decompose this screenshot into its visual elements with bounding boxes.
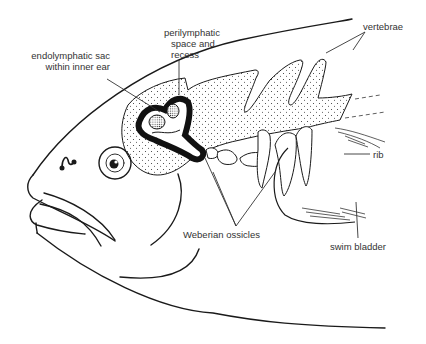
lower-lip bbox=[30, 200, 85, 234]
label-vertebrae: vertebrae bbox=[363, 21, 403, 32]
ossicle-2 bbox=[217, 150, 237, 165]
leader-vertebrae-1 bbox=[326, 32, 365, 53]
ossicle-4 bbox=[257, 130, 270, 188]
label-endolymphatic-sac: endolymphatic sac within inner ear bbox=[18, 50, 110, 72]
rib-2 bbox=[296, 127, 312, 186]
leader-vertebrae-2 bbox=[353, 32, 365, 50]
operculum bbox=[151, 174, 181, 245]
leader-swim-bladder bbox=[356, 202, 358, 238]
rib-1 bbox=[275, 133, 296, 196]
ossicle-1 bbox=[206, 148, 218, 159]
label-perilymphatic-space: perilymphatic space and recess bbox=[164, 27, 220, 60]
upper-lip bbox=[28, 175, 115, 241]
label-swim-bladder: swim bladder bbox=[330, 241, 386, 252]
leader-ossicles-2 bbox=[236, 172, 275, 226]
leader-ossicles-3 bbox=[213, 172, 236, 226]
fish-anatomy-diagram: endolymphatic sac within inner ear peril… bbox=[0, 0, 426, 344]
label-rib: rib bbox=[373, 149, 384, 160]
label-weberian-ossicles: Weberian ossicles bbox=[183, 229, 260, 240]
